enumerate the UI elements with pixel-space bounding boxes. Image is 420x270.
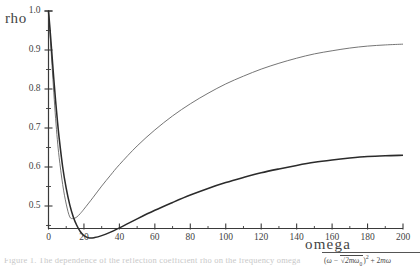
x-tick-label: 200	[390, 232, 416, 242]
x-tick-label: 80	[177, 232, 203, 242]
x-tick-label: 140	[284, 232, 310, 242]
y-tick-label: 0.9	[15, 44, 41, 54]
x-tick-label: 160	[319, 232, 345, 242]
x-tick-label: 180	[355, 232, 381, 242]
y-tick-label: 0.8	[15, 83, 41, 93]
caption-strip: Figure 1. The dependence of the reflecti…	[0, 258, 420, 270]
x-tick-label: 60	[142, 232, 168, 242]
x-tick-label: 100	[213, 232, 239, 242]
formula-radical-bar	[322, 252, 420, 253]
x-tick-label: 20	[71, 232, 97, 242]
figure-caption: Figure 1. The dependence of the reflecti…	[4, 258, 301, 265]
y-tick-label: 0.5	[15, 200, 41, 210]
y-tick-label: 1.0	[15, 5, 41, 15]
figure-panel: rho omega 1.00.90.80.70.60.5020406080100…	[0, 0, 420, 270]
data-curve-lower	[49, 11, 404, 238]
x-tick-label: 120	[248, 232, 274, 242]
axis-lines	[49, 10, 404, 229]
x-axis-ticks	[49, 224, 404, 230]
x-tick-label: 40	[106, 232, 132, 242]
data-curve-upper	[49, 11, 404, 219]
y-tick-label: 0.7	[15, 122, 41, 132]
plot-canvas	[0, 0, 420, 270]
y-tick-label: 0.6	[15, 161, 41, 171]
x-tick-label: 0	[36, 232, 62, 242]
